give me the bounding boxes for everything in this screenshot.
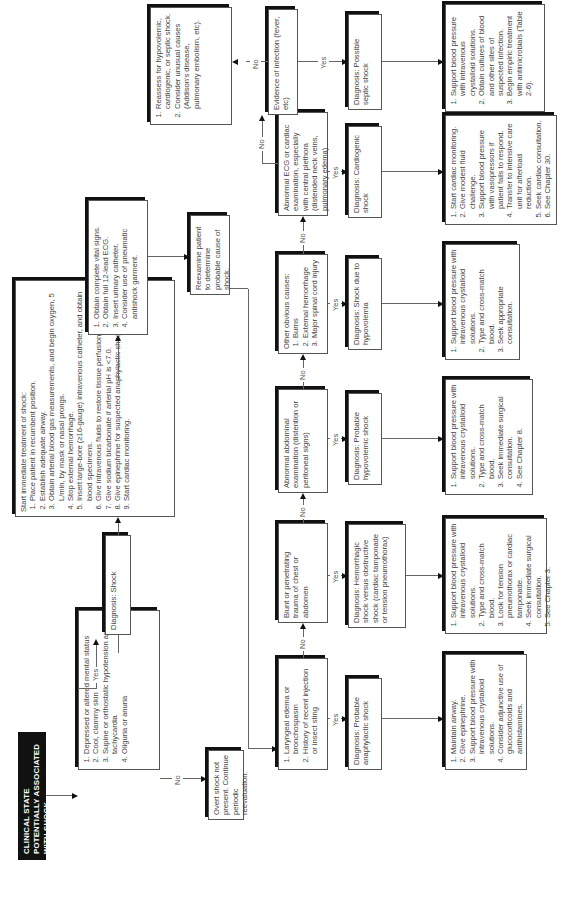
treatment-anaphylactic: Maintain airway.Give epinephrine. Suppor…	[445, 654, 527, 770]
diagnosis-anaphylactic: Diagnosis: Probable anaphylactic shock	[348, 678, 382, 770]
connector	[382, 438, 438, 439]
no-label: No	[298, 637, 307, 651]
arrow-icon	[300, 354, 306, 360]
arrow-icon	[93, 639, 99, 645]
reexamine-box: Reexamine patient to determine probable …	[190, 215, 230, 295]
decision-trauma: Blunt or penetrating trauma of chest or …	[278, 523, 328, 623]
diagnosis-hemorrhagic-obstructive: Diagnosis: Hemorrhagic shock versus obst…	[348, 524, 406, 628]
vitals-box: Obtain complete vital signs. Obtain full…	[88, 200, 148, 335]
arrow-icon	[438, 169, 444, 175]
decision-infection: Evidence of infection (fever, etc)	[268, 9, 298, 115]
treatment-septic: Support blood pressure with intravenous …	[445, 4, 545, 112]
arrow-icon	[438, 436, 444, 442]
diagnosis-hypovolemia: Diagnosis: Shock due to hypovolemia	[348, 258, 382, 350]
no-label: No	[298, 368, 307, 382]
connector	[46, 795, 74, 796]
arrow-icon	[300, 493, 306, 499]
decision-anaphylaxis: Laryngeal edema or bronchospasm History …	[278, 658, 328, 770]
treatment-hemorrhagic: Support blood pressure with intravenous …	[445, 518, 547, 634]
flowchart-title: CLINICAL STATE POTENTIALLY ASSOCIATED WI…	[18, 732, 46, 860]
diagnosis-shock-box: Diagnosis: Shock	[105, 535, 131, 635]
treatment-cardiogenic: Start cardiac monitoring.Give modest flu…	[445, 115, 557, 225]
decision-cardiac: Abnormal ECG or cardiac examination, esp…	[278, 112, 328, 216]
connector	[148, 256, 184, 257]
no-shock-box: Overt shock not present. Continue period…	[208, 750, 244, 820]
connector	[118, 635, 119, 653]
connector	[382, 171, 438, 172]
connector	[382, 718, 438, 719]
connector	[78, 688, 96, 689]
no-label: No	[298, 505, 307, 519]
connector	[262, 163, 278, 164]
arrow-icon	[342, 169, 348, 175]
connector	[382, 61, 438, 62]
yes-label: Yes	[330, 299, 341, 311]
connector	[406, 575, 438, 576]
connector	[118, 523, 119, 535]
arrow-icon	[438, 59, 444, 65]
diagnosis-septic: Diagnosis: Possible septic shock	[348, 14, 382, 110]
treatment-hypovolemic: Support blood pressure with intravenous …	[445, 379, 533, 495]
no-label: No	[172, 775, 183, 785]
yes-label: Yes	[330, 571, 341, 583]
connector	[248, 289, 249, 749]
no-label: No	[298, 231, 307, 245]
arrow-icon	[438, 573, 444, 579]
arrow-icon	[342, 301, 348, 307]
no-label: No	[250, 59, 261, 69]
connector	[118, 341, 119, 380]
arrow-icon	[232, 59, 238, 65]
arrow-icon	[342, 573, 348, 579]
reassess-box: Reassess for hypovolemic, cardiogenic, o…	[150, 7, 232, 125]
connector	[230, 288, 248, 289]
arrow-icon	[342, 716, 348, 722]
arrow-icon	[300, 623, 306, 629]
shock-flowchart: CLINICAL STATE POTENTIALLY ASSOCIATED WI…	[0, 0, 580, 909]
arrow-icon	[342, 59, 348, 65]
diagnosis-hypovolemic: Diagnosis: Probable hypovolemic shock	[348, 393, 382, 485]
arrow-icon	[72, 793, 78, 799]
yes-label: Yes	[91, 667, 100, 683]
no-label: No	[257, 137, 266, 151]
arrow-icon	[342, 436, 348, 442]
yes-label: Yes	[330, 167, 341, 179]
connector	[382, 303, 438, 304]
arrow-icon	[115, 335, 121, 341]
decision-other-causes: Other obvious causes: Burns External hem…	[278, 254, 328, 354]
connector	[248, 748, 275, 749]
yes-label: Yes	[330, 434, 341, 446]
yes-label: Yes	[330, 714, 341, 726]
arrow-icon	[201, 776, 207, 782]
decision-abdominal: Abnormal abdominal examination (distenti…	[278, 389, 328, 493]
arrow-icon	[438, 301, 444, 307]
arrow-icon	[115, 517, 121, 523]
arrow-icon	[259, 115, 265, 121]
yes-label: Yes	[318, 57, 329, 69]
treatment-hypovolemia: Support blood pressure with intravenous …	[445, 244, 520, 360]
arrow-icon	[300, 216, 306, 222]
arrow-icon	[438, 716, 444, 722]
diagnosis-cardiogenic: Diagnosis: Cardiogenic shock	[348, 126, 382, 218]
